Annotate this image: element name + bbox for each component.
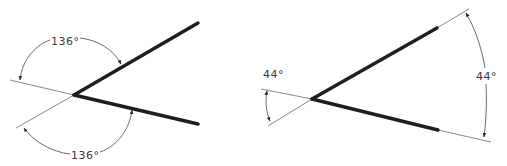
angle-label-upper: 136° (51, 35, 80, 48)
extension-line-back-lower (268, 99, 312, 126)
extension-line-lower-left (16, 95, 74, 128)
extension-line-front-lower (438, 130, 491, 142)
dimension-arc-lower-left (24, 128, 70, 154)
obtuse-angle-figure: 136° 136° (10, 23, 198, 162)
dimension-arc-left (266, 91, 270, 121)
angle-label-lower: 136° (71, 149, 100, 162)
object-line-upper (312, 28, 437, 99)
extension-line-front-upper (437, 9, 469, 28)
dimension-arc-upper-right (80, 38, 121, 64)
extension-line-back-upper (261, 89, 312, 99)
object-line-lower (74, 95, 198, 124)
angle-diagram-canvas: 136° 136° 44° 44° (0, 0, 507, 166)
object-line-upper (74, 23, 198, 95)
dimension-arc-upper-left (20, 40, 50, 80)
extension-line-left (10, 80, 74, 95)
dimension-arc-right-top (466, 13, 485, 68)
acute-angle-figure: 44° 44° (261, 9, 497, 142)
object-line-lower (312, 99, 438, 130)
angle-label-right: 44° (476, 70, 497, 83)
angle-label-left: 44° (263, 68, 284, 81)
dimension-arc-right-bottom (484, 84, 486, 137)
dimension-arc-lower-right (100, 110, 132, 152)
